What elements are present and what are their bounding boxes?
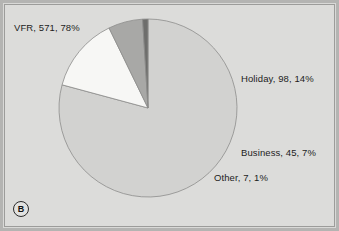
slice-label-vfr: VFR, 571, 78% [14,22,80,33]
slice-label-holiday: Holiday, 98, 14% [241,73,314,84]
figure-panel: VFR, 571, 78% Holiday, 98, 14% Business,… [0,0,339,231]
slice-label-business: Business, 45, 7% [241,147,316,158]
panel-letter: B [18,205,25,214]
pie-chart [0,0,339,231]
pie-slice-group [59,19,237,197]
panel-letter-badge: B [13,201,29,217]
slice-label-other: Other, 7, 1% [214,172,268,183]
